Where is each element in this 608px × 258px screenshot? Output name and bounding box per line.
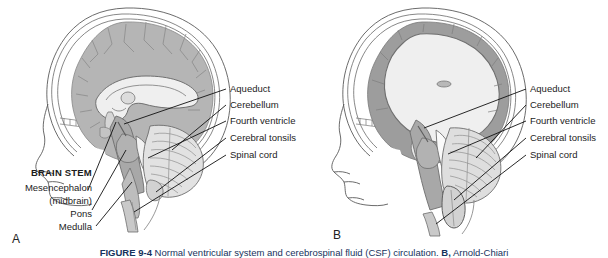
- caption-figure-number: FIGURE 9-4: [100, 247, 152, 258]
- label-spinal-cord-a: Spinal cord: [230, 150, 278, 160]
- label-cerebral-tonsils-b: Cerebral tonsils: [530, 133, 596, 143]
- panel-letter-a: A: [12, 232, 20, 246]
- label-aqueduct-a: Aqueduct: [230, 84, 270, 94]
- label-fourth-ventricle-b: Fourth ventricle: [530, 116, 595, 126]
- figure-caption: FIGURE 9-4 Normal ventricular system and…: [0, 247, 608, 258]
- panel-letter-b: B: [333, 228, 341, 242]
- label-brain-stem: BRAIN STEM: [0, 168, 92, 178]
- panel-b-arnold-chiari: Aqueduct Cerebellum Fourth ventricle Cer…: [304, 0, 608, 240]
- label-cerebral-tonsils-a: Cerebral tonsils: [230, 133, 296, 143]
- caption-text-b: Arnold-Chiari: [453, 247, 508, 258]
- label-aqueduct-b: Aqueduct: [530, 84, 570, 94]
- label-cerebellum-a: Cerebellum: [230, 100, 279, 110]
- label-spinal-cord-b: Spinal cord: [530, 150, 578, 160]
- panel-a-normal-anatomy: Aqueduct Cerebellum Fourth ventricle Cer…: [0, 0, 304, 240]
- spinal-cord: [121, 196, 160, 232]
- caption-label-b: B,: [441, 247, 451, 258]
- label-cerebellum-b: Cerebellum: [530, 100, 579, 110]
- label-mesencephalon: Mesencephalon: [0, 183, 92, 193]
- label-medulla: Medulla: [0, 222, 92, 232]
- label-pons: Pons: [0, 209, 92, 219]
- caption-text: Normal ventricular system and cerebrospi…: [155, 247, 439, 258]
- label-fourth-ventricle-a: Fourth ventricle: [230, 116, 295, 126]
- label-midbrain: (midbrain): [0, 196, 92, 206]
